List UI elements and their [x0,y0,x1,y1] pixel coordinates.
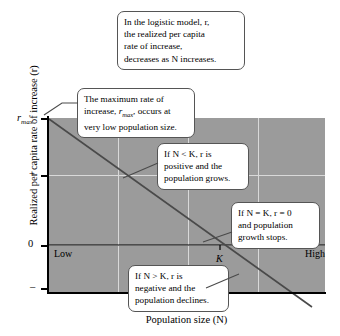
logistic-growth-figure: rmax + 0 – Realized per capita rate of i… [0,0,340,336]
gridline-vertical [118,118,119,293]
y-tick-zero [41,245,47,247]
x-label-low: Low [54,248,72,259]
y-axis-line [47,116,49,294]
x-label-high: High [305,248,325,259]
callout-line: and population [238,219,313,231]
callout-line: If N = K, r = 0 [238,207,313,219]
callout-line: decreases as N increases. [124,53,238,65]
callout-logistic-model: In the logistic model, r, the realized p… [117,11,245,70]
y-tick-minus [41,288,47,290]
callout-line: population grows. [164,172,242,184]
callout-line: In the logistic model, r, [124,16,238,28]
callout-n-less-than-k: If N < K, r is positive and the populati… [157,143,249,190]
callout-line: the realized per capita [124,28,238,40]
callout-n-equals-k: If N = K, r = 0 and population growth st… [231,202,320,249]
x-label-k: K [216,253,223,264]
y-tick-plus [41,175,47,177]
y-tick-label-minus: – [30,281,35,292]
callout-line: increase, rmax, occurs at [84,105,188,121]
x-axis-label: Population size (N) [48,314,325,325]
y-tick-label-zero: 0 [28,238,33,249]
callout-n-greater-than-k: If N > K, r is negative and the populati… [128,265,229,312]
callout-line: If N < K, r is [164,148,242,160]
callout-line: growth stops. [238,231,313,243]
callout-line: rate of increase, [124,40,238,52]
y-axis-label: Realized per capita rate of increase (r) [28,66,39,226]
callout-line: very low population size. [84,121,188,133]
callout-line: If N > K, r is [135,270,222,282]
leader-line-max-rate [44,103,78,115]
y-tick-rmax [41,118,47,120]
callout-max-rate: The maximum rate of increase, rmax, occu… [77,88,195,138]
callout-line: The maximum rate of [84,93,188,105]
callout-line: negative and the [135,282,222,294]
callout-line: population declines. [135,294,222,306]
callout-line: positive and the [164,160,242,172]
